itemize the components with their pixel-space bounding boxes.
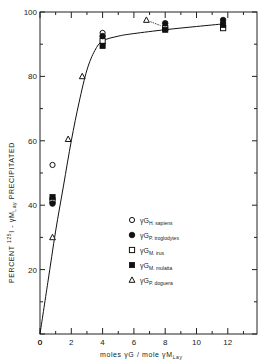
legend-species: P. doguera	[149, 280, 173, 286]
fit-curve	[40, 24, 223, 334]
legend-label: γGH. sapiens	[140, 217, 173, 226]
data-point-open-triangle	[144, 17, 150, 22]
legend-label: γGM. irus	[140, 247, 164, 256]
legend-label: γGP. troglodytes	[140, 232, 179, 241]
chart: 024681012020406080100 γGH. sapiensγGP. t…	[0, 0, 267, 362]
y-tick-label: 40	[28, 201, 37, 210]
x-tick-label: 12	[223, 338, 232, 347]
x-tick-label: 4	[100, 338, 105, 347]
data-point-open-triangle	[65, 136, 71, 141]
axes: 024681012020406080100	[24, 8, 257, 347]
legend-prefix: γG	[140, 247, 149, 255]
legend-species: P. troglodytes	[149, 235, 179, 241]
legend-item: γGM. irus	[129, 247, 164, 256]
legend-item: γGP. troglodytes	[129, 232, 179, 241]
y-tick-label: 20	[28, 266, 37, 275]
data-point-filled-circle	[50, 201, 56, 207]
open-square-icon	[129, 247, 134, 252]
y-axis-label: PERCENT 125I - γMLay PRECIPITATED	[6, 142, 17, 283]
x-axis-label: moles γG / mole γMLay	[100, 351, 183, 360]
filled-circle-icon	[129, 232, 135, 238]
legend-label: γGM. mulatta	[140, 262, 173, 271]
data-points	[50, 17, 226, 240]
legend-item: γGH. sapiens	[129, 217, 173, 226]
data-point-open-circle	[50, 162, 55, 167]
legend-prefix: γG	[140, 277, 149, 285]
data-point-filled-square	[50, 195, 55, 200]
y-tick-label: 0	[38, 338, 43, 347]
data-point-filled-circle	[162, 20, 168, 26]
legend-species: M. irus	[149, 250, 165, 256]
data-point-filled-circle	[100, 33, 106, 39]
open-triangle-icon	[129, 277, 135, 282]
y-tick-label: 60	[28, 137, 37, 146]
x-axis-label-sub: Lay	[173, 354, 183, 360]
x-tick-label: 2	[69, 338, 74, 347]
x-tick-label: 8	[163, 338, 168, 347]
legend-prefix: γG	[140, 262, 149, 270]
filled-square-icon	[129, 262, 134, 267]
fit-curve-path	[40, 24, 223, 334]
leader-line	[150, 22, 160, 26]
legend-item: γGM. mulatta	[129, 262, 172, 271]
legend-prefix: γG	[140, 217, 149, 225]
y-tick-label: 80	[28, 72, 37, 81]
data-point-filled-circle	[220, 17, 226, 23]
data-point-filled-square	[163, 27, 168, 32]
legend-species: M. mulatta	[149, 265, 173, 271]
y-tick-label: 100	[24, 8, 38, 17]
legend: γGH. sapiensγGP. troglodytesγGM. irusγGM…	[129, 217, 179, 286]
data-point-open-triangle	[79, 73, 85, 78]
legend-prefix: γG	[140, 232, 149, 240]
legend-species: H. sapiens	[149, 220, 173, 226]
x-tick-label: 6	[132, 338, 137, 347]
x-tick-label: 10	[192, 338, 201, 347]
legend-label: γGP. doguera	[140, 277, 173, 286]
data-point-filled-square	[100, 43, 105, 48]
legend-item: γGP. doguera	[129, 277, 173, 286]
open-circle-icon	[129, 217, 134, 222]
